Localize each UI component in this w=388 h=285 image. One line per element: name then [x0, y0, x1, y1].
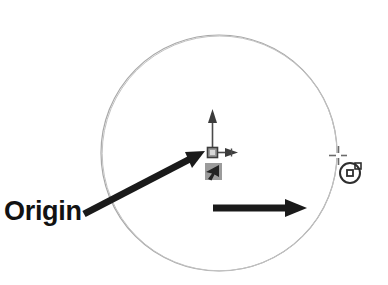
- horizontal-direction-arrow: [213, 199, 307, 217]
- snap-marker-circle: [340, 163, 360, 183]
- drawing-canvas: Origin: [0, 0, 388, 285]
- crosshair-center-gap: [336, 153, 341, 158]
- cad-scene: [0, 0, 388, 285]
- ucs-origin-icon: [208, 109, 239, 158]
- snap-marker-inner-square: [347, 170, 353, 176]
- pick-cursor-icon: [205, 163, 222, 181]
- horizontal-arrow-head: [285, 199, 307, 217]
- crosshair-cursor: [329, 146, 347, 165]
- ucs-y-axis-arrowhead: [208, 109, 217, 123]
- drawn-circle-texture: [102, 36, 337, 271]
- leader-arrow-shaft: [84, 159, 190, 214]
- ucs-origin-box-inner: [210, 150, 215, 155]
- object-snap-marker: [340, 163, 361, 183]
- origin-text-label: Origin: [4, 198, 82, 225]
